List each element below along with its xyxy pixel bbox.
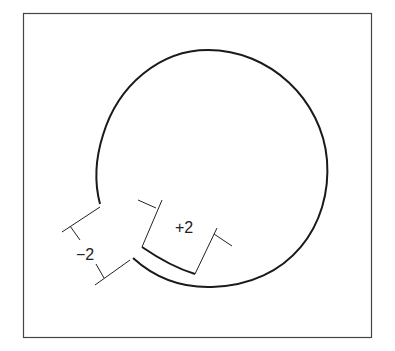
dimension-plus-2 <box>138 200 232 274</box>
frame-border <box>24 14 372 338</box>
diagram-canvas: −2 +2 <box>0 0 395 351</box>
dimension-label-minus-2: −2 <box>76 246 94 263</box>
dimension-minus-2 <box>62 207 130 285</box>
circle-outline <box>97 50 328 287</box>
dimension-label-plus-2: +2 <box>175 219 193 236</box>
